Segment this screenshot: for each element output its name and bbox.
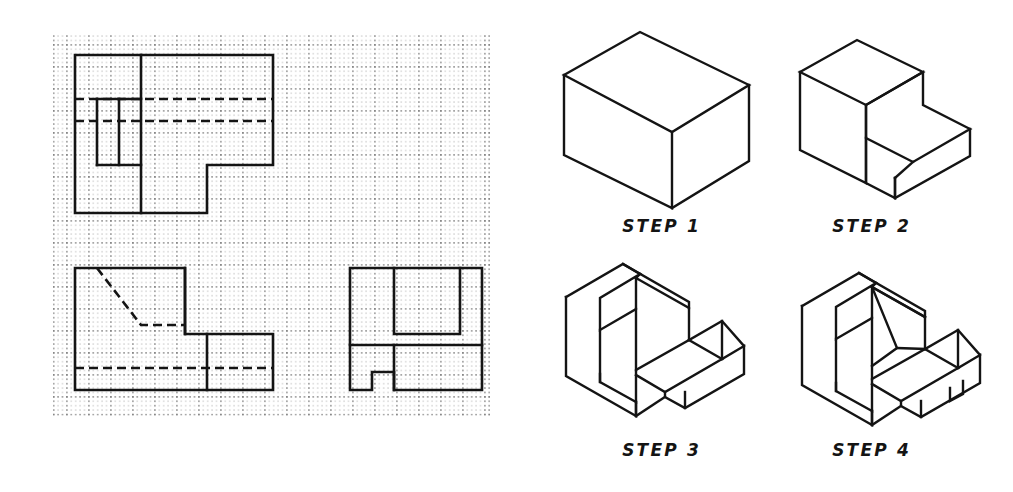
- step-4-slab-top-back: [925, 330, 980, 355]
- step-1-panel: STEP 1: [548, 28, 773, 236]
- step-2-number: 2: [897, 216, 909, 236]
- step-1-isometric-drawing: [548, 28, 773, 218]
- worksheet-page: STEP 1 STEP 2: [0, 0, 1013, 492]
- step-2-tread-face: [866, 72, 970, 162]
- step-2-isometric-drawing: [758, 28, 983, 218]
- step-1-caption: STEP 1: [548, 216, 773, 236]
- step-4-inclined-face-base: [897, 348, 925, 349]
- orthographic-grid-panel: [0, 0, 520, 492]
- step-3-slab-top-back: [689, 321, 744, 346]
- step-2-lower-front-edge: [895, 162, 913, 178]
- grid-and-views-drawing: [0, 0, 520, 492]
- step-1-left-face: [564, 75, 672, 208]
- grid-dot-field: [53, 33, 490, 416]
- step-1-right-face: [672, 85, 749, 208]
- step-4-label-text: STEP: [832, 440, 889, 460]
- step-1-number: 1: [687, 216, 699, 236]
- step-2-label-text: STEP: [832, 216, 889, 236]
- step-4-slot-top-contour: [802, 273, 925, 411]
- step-1-label-text: STEP: [622, 216, 679, 236]
- step-3-lower-front-edge: [636, 397, 665, 416]
- step-4-inclined-face-top: [872, 287, 925, 317]
- step-3-slot-top-contour: [566, 264, 689, 402]
- step-3-tread-face: [636, 340, 722, 392]
- step-3-label-text: STEP: [622, 440, 679, 460]
- step-2-upper-top-face: [800, 40, 923, 105]
- step-2-panel: STEP 2: [758, 28, 983, 236]
- step-4-lower-slab-right: [901, 355, 980, 417]
- step-3-panel: STEP 3: [548, 252, 773, 460]
- step-3-slot-lip: [636, 274, 640, 278]
- step-4-isometric-drawing: [758, 252, 983, 442]
- step-2-lower-left-face: [866, 138, 895, 198]
- step-1-top-face: [564, 32, 749, 132]
- step-4-panel: STEP 4: [758, 252, 983, 460]
- step-3-lower-slab-right: [665, 346, 744, 408]
- step-4-number: 4: [897, 440, 909, 460]
- step-3-number: 3: [687, 440, 699, 460]
- step-2-caption: STEP 2: [758, 216, 983, 236]
- step-4-lower-front-edge: [872, 406, 901, 425]
- step-3-caption: STEP 3: [548, 440, 773, 460]
- step-3-isometric-drawing: [548, 252, 773, 442]
- step-4-caption: STEP 4: [758, 440, 983, 460]
- step-2-lower-right-face: [895, 129, 970, 198]
